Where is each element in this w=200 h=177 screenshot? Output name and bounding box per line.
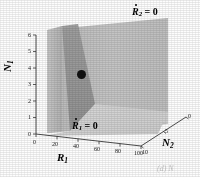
annotation-r1-var: R [72,120,79,131]
r2-dot-variable: R [132,7,139,17]
tick-label-r1-0: 0 [33,139,36,145]
tick-label-n1-2: 2 [24,98,31,104]
tick-label-n1-4: 4 [24,65,31,71]
annotation-r1-nullcline: R1 = 0 [72,121,98,132]
annotation-r2-nullcline: R2 = 0 [132,7,158,18]
axis-title-n1: N1 [2,60,14,72]
axis-title-n1-main: N [1,64,13,72]
tick-label-n1-3: 3 [24,81,31,87]
tick-label-n1-5: 5 [24,48,31,54]
tick-label-n1-0: 0 [24,131,31,137]
axis-title-n2-main: N [162,136,170,148]
annotation-r1-eq: = 0 [82,120,98,131]
axis-title-n1-sub: 1 [6,60,15,64]
axis-title-n2: N2 [162,137,174,149]
axis-title-r1-sub: 1 [64,156,68,165]
axis-title-n2-sub: 2 [170,141,174,150]
figure-3d-nullcline-surface-plot: 6 5 4 3 2 1 0 0 20 40 60 80 100 10 5 0 N… [0,0,200,177]
tick-label-n2-0: 0 [188,113,191,119]
tick-label-r1-80: 80 [115,148,121,154]
tick-label-n1-1: 1 [24,114,31,120]
tick-label-n1-6: 6 [24,32,31,38]
caption-fragment: (d) N [157,165,174,173]
tick-label-r1-20: 20 [52,141,58,147]
r1-dot-variable: R [72,121,79,131]
tick-label-n2-5: 5 [165,128,168,134]
plot-scene [0,0,200,177]
annotation-r2-var: R [132,6,139,17]
surface-r2-left-face [47,26,62,133]
tick-label-r1-60: 60 [94,146,100,152]
equilibrium-point-marker [77,70,86,79]
tick-label-r1-40: 40 [73,143,79,149]
axis-title-r1: R1 [57,152,68,164]
tick-label-n2-10: 10 [142,149,148,155]
annotation-r2-eq: = 0 [142,6,158,17]
